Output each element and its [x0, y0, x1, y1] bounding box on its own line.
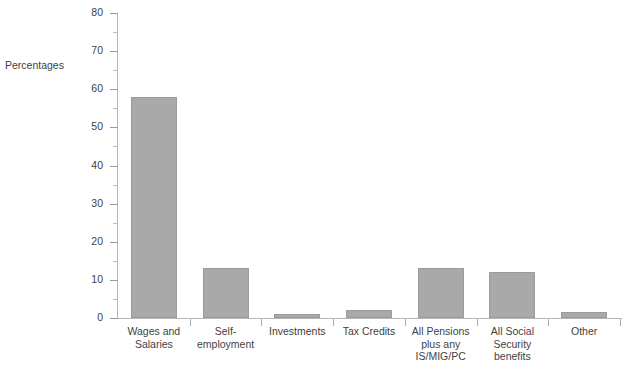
x-axis-label-line: Wages and [118, 325, 190, 338]
bar-chart: Percentages 01020304050607080 Wages andS… [0, 0, 627, 370]
y-tick-major [110, 242, 118, 243]
bar [131, 97, 177, 318]
x-axis-label-line: Security [477, 338, 549, 351]
x-axis-label-line: plus any [405, 338, 477, 351]
x-axis-label-line: employment [190, 338, 262, 351]
plot-area [118, 13, 620, 318]
y-axis-title: Percentages [5, 59, 64, 72]
y-tick-major [110, 204, 118, 205]
bar [274, 314, 320, 318]
x-axis-label-line: Self- [190, 325, 262, 338]
y-tick-label: 30 [79, 198, 103, 209]
bar [346, 310, 392, 318]
y-tick-major [110, 51, 118, 52]
y-tick-major [110, 13, 118, 14]
x-axis-label: Wages andSalaries [118, 325, 190, 350]
x-axis-label: All Pensionsplus anyIS/MIG/PC [405, 325, 477, 363]
x-axis-label: Tax Credits [333, 325, 405, 338]
y-tick-label: 20 [79, 236, 103, 247]
y-tick-major [110, 280, 118, 281]
footer-note [0, 362, 627, 370]
bar [203, 268, 249, 318]
x-axis-label: Self-employment [190, 325, 262, 350]
y-tick-major [110, 318, 118, 319]
x-axis-label: Other [548, 325, 620, 338]
x-axis-label-line: All Pensions [405, 325, 477, 338]
y-tick-label: 70 [79, 45, 103, 56]
y-tick-major [110, 89, 118, 90]
bar [561, 312, 607, 318]
x-axis-label-line: Salaries [118, 338, 190, 351]
y-tick-label: 80 [79, 7, 103, 18]
x-axis-label: All SocialSecuritybenefits [477, 325, 549, 363]
y-tick-label: 0 [79, 312, 103, 323]
x-axis-label-line: Tax Credits [333, 325, 405, 338]
y-tick-label: 10 [79, 274, 103, 285]
bar [418, 268, 464, 318]
x-tick [620, 319, 621, 326]
x-axis-label: Investments [261, 325, 333, 338]
x-axis-label-line: IS/MIG/PC [405, 350, 477, 363]
y-tick-major [110, 166, 118, 167]
y-tick-major [110, 127, 118, 128]
x-axis-label-line: benefits [477, 350, 549, 363]
y-tick-label: 60 [79, 83, 103, 94]
x-axis-label-line: All Social [477, 325, 549, 338]
bar [489, 272, 535, 318]
y-tick-label: 40 [79, 160, 103, 171]
x-axis-label-line: Other [548, 325, 620, 338]
y-tick-label: 50 [79, 121, 103, 132]
x-axis-label-line: Investments [261, 325, 333, 338]
y-axis-tick-labels: 01020304050607080 [79, 0, 103, 370]
